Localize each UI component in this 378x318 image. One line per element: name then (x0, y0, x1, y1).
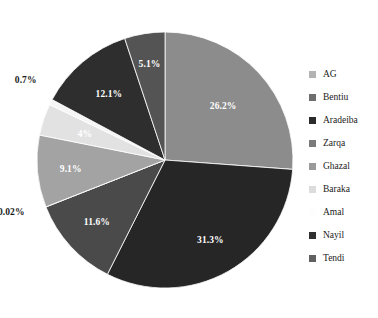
legend-item-label: Tendi (323, 247, 345, 270)
legend-swatch-icon (309, 117, 316, 124)
legend-swatch-icon (309, 71, 316, 78)
legend-item-label: Bentiu (323, 86, 348, 109)
legend-item[interactable]: AG (309, 63, 378, 86)
pie-slice-label: 4% (78, 129, 92, 139)
pie-slice-label: 31.3% (197, 235, 224, 245)
pie-chart-figure: 26.2%31.3%11.6%0.02%9.1%4%0.7%12.1%5.1% … (0, 0, 378, 318)
pie-slice-label: 0.02% (0, 207, 25, 217)
legend-item[interactable]: Ghazal (309, 155, 378, 178)
pie-slice-label: 11.6% (84, 217, 110, 227)
legend-item[interactable]: Nayil (309, 224, 378, 247)
legend-swatch-icon (309, 140, 316, 147)
chart-legend: AGBentiuAradeibaZarqaGhazalBarakaAmalNay… (309, 63, 378, 270)
legend-item-label: Nayil (323, 224, 344, 247)
legend-item[interactable]: Amal (309, 201, 378, 224)
legend-item[interactable]: Zarqa (309, 132, 378, 155)
legend-swatch-icon (309, 163, 316, 170)
legend-swatch-icon (309, 209, 316, 216)
legend-item-label: Baraka (323, 178, 350, 201)
legend-item-label: Aradeiba (323, 109, 358, 132)
pie-slice-label: 9.1% (60, 164, 82, 174)
legend-swatch-icon (309, 255, 316, 262)
pie-slice-label: 26.2% (210, 101, 237, 111)
legend-item-label: Ghazal (323, 155, 350, 178)
legend-swatch-icon (309, 186, 316, 193)
legend-item-label: AG (323, 63, 337, 86)
legend-swatch-icon (309, 94, 316, 101)
legend-item[interactable]: Bentiu (309, 86, 378, 109)
legend-item[interactable]: Baraka (309, 178, 378, 201)
legend-item-label: Amal (323, 201, 344, 224)
legend-item[interactable]: Tendi (309, 247, 378, 270)
legend-item-label: Zarqa (323, 132, 345, 155)
pie-slice-label: 0.7% (15, 75, 37, 85)
pie-slice-label: 12.1% (96, 89, 123, 99)
legend-swatch-icon (309, 232, 316, 239)
legend-item[interactable]: Aradeiba (309, 109, 378, 132)
pie-slice-group (37, 32, 293, 288)
pie-slice-label: 5.1% (139, 59, 161, 69)
